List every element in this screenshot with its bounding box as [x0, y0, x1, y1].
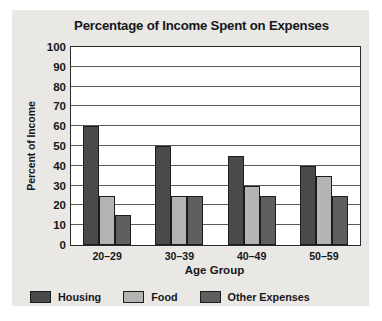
y-tick-label: 60 — [53, 120, 66, 132]
bar — [155, 146, 171, 245]
chart-title: Percentage of Income Spent on Expenses — [12, 18, 369, 33]
y-tick-label: 100 — [47, 41, 66, 53]
legend-label: Housing — [58, 291, 101, 303]
bar-group: 20–29 — [71, 47, 143, 245]
legend-swatch — [200, 291, 221, 303]
bar — [300, 166, 316, 245]
bar — [316, 176, 332, 245]
legend-label: Other Expenses — [228, 291, 310, 303]
bar — [244, 186, 260, 245]
y-tick-label: 20 — [53, 199, 66, 211]
chart-figure: Percentage of Income Spent on Expenses P… — [12, 10, 369, 306]
bar — [187, 196, 203, 246]
bar — [228, 156, 244, 245]
bar — [115, 215, 131, 245]
bar — [260, 196, 276, 246]
bar-group: 30–39 — [143, 47, 215, 245]
y-tick-label: 30 — [53, 180, 66, 192]
bar-series-container: 20–2930–3940–4950–59 — [71, 47, 360, 245]
x-tick-label: 40–49 — [216, 250, 288, 262]
y-axis-label: Percent of Income — [25, 91, 37, 201]
y-tick-label: 10 — [53, 219, 66, 231]
legend-item: Other Expenses — [200, 291, 310, 303]
legend-item: Housing — [30, 291, 101, 303]
bar — [332, 196, 348, 246]
legend-swatch — [30, 291, 51, 303]
bar — [99, 196, 115, 246]
x-tick-label: 50–59 — [288, 250, 360, 262]
legend-item: Food — [123, 291, 177, 303]
y-tick-label: 50 — [53, 140, 66, 152]
y-tick-label: 0 — [60, 239, 66, 251]
x-axis-label: Age Group — [70, 264, 359, 276]
y-tick-label: 90 — [53, 61, 66, 73]
bar — [171, 196, 187, 246]
y-tick-label: 70 — [53, 100, 66, 112]
legend-swatch — [123, 291, 144, 303]
y-tick-label: 80 — [53, 81, 66, 93]
x-tick-label: 20–29 — [71, 250, 143, 262]
y-tick-label: 40 — [53, 160, 66, 172]
bar-group: 50–59 — [288, 47, 360, 245]
chart-legend: HousingFoodOther Expenses — [30, 291, 332, 303]
legend-label: Food — [151, 291, 177, 303]
bar — [83, 126, 99, 245]
plot-area: 0102030405060708090100 20–2930–3940–4950… — [70, 46, 361, 246]
x-tick-label: 30–39 — [143, 250, 215, 262]
bar-group: 40–49 — [216, 47, 288, 245]
